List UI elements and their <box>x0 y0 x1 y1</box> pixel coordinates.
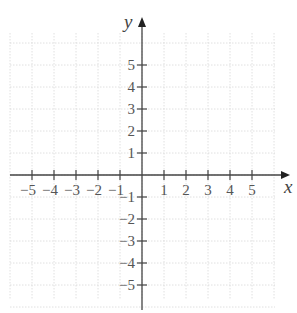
y-tick-label: 5 <box>128 57 136 73</box>
x-tick-label: −2 <box>86 182 102 198</box>
y-tick-label: 2 <box>128 123 136 139</box>
coordinate-plane: −5−4−3−2−112345 54321−1−2−3−4−5 x y <box>0 0 297 313</box>
y-tick-label: −3 <box>119 233 135 249</box>
y-axis-label: y <box>122 11 133 32</box>
y-tick-label: −1 <box>119 189 135 205</box>
x-tick-label: 1 <box>160 182 168 198</box>
x-tick-label: −4 <box>42 182 58 198</box>
x-tick-label: 2 <box>182 182 190 198</box>
y-axis-arrow-icon <box>138 17 146 27</box>
y-tick-label: −2 <box>119 211 135 227</box>
y-tick-label: −4 <box>119 255 135 271</box>
axes <box>10 17 290 310</box>
y-tick-label: 1 <box>128 145 136 161</box>
x-axis-label: x <box>283 176 293 197</box>
y-tick-label: 3 <box>128 101 136 117</box>
x-ticks: −5−4−3−2−112345 <box>20 170 256 198</box>
x-tick-label: 3 <box>204 182 212 198</box>
x-tick-label: 5 <box>248 182 256 198</box>
y-tick-label: −5 <box>119 277 135 293</box>
x-tick-label: −3 <box>64 182 80 198</box>
y-tick-label: 4 <box>128 79 136 95</box>
x-tick-label: 4 <box>226 182 234 198</box>
x-tick-label: −5 <box>20 182 36 198</box>
